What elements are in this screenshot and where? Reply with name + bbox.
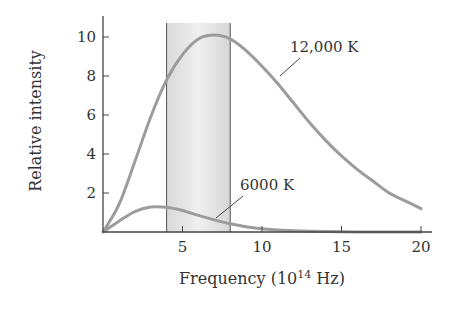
y-tick-label: 8 <box>86 67 96 85</box>
y-tick-label: 10 <box>77 28 96 46</box>
label-12000k: 12,000 K <box>290 38 359 56</box>
axes: 2468105101520 <box>77 16 432 256</box>
x-tick-label: 20 <box>411 238 430 256</box>
y-tick-label: 2 <box>86 184 96 202</box>
band-fill <box>167 23 231 232</box>
x-tick-label: 10 <box>252 238 271 256</box>
y-tick-label: 6 <box>86 106 96 124</box>
curve-12000k <box>103 35 421 232</box>
x-axis-title: Frequency (1014 Hz) <box>179 268 345 288</box>
x-tick-label: 15 <box>332 238 351 256</box>
blackbody-chart: 2468105101520 Frequency (1014 Hz)Relativ… <box>0 0 454 312</box>
visible-light-band <box>167 23 231 232</box>
x-tick-label: 5 <box>178 238 188 256</box>
intensity-curves <box>103 35 421 232</box>
label-6000k: 6000 K <box>240 176 295 194</box>
leader-12000k <box>280 58 300 76</box>
y-axis-title: Relative intensity <box>26 50 45 192</box>
y-tick-label: 4 <box>86 145 96 163</box>
